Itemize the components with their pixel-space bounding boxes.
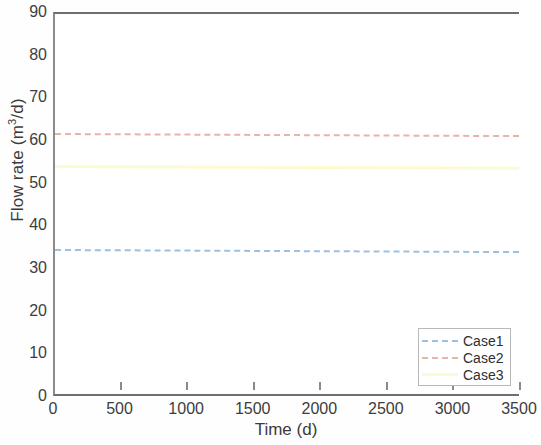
y-axis-tick-label: 30 bbox=[13, 259, 47, 277]
x-axis-label: Time (d) bbox=[53, 420, 519, 440]
x-axis-tick-mark bbox=[519, 382, 521, 390]
y-axis-tick-label: 10 bbox=[13, 344, 47, 362]
x-axis-tick-mark bbox=[120, 382, 122, 390]
legend-item-case1[interactable]: Case1 bbox=[419, 332, 510, 349]
x-axis-tick-label: 1500 bbox=[223, 400, 283, 418]
y-axis-tick-label: 40 bbox=[13, 216, 47, 234]
legend-item-label: Case1 bbox=[463, 333, 503, 349]
x-axis-tick-label: 3500 bbox=[489, 400, 541, 418]
y-axis-label: Flow rate (m3/d) bbox=[8, 50, 28, 270]
y-axis-tick-label: 20 bbox=[13, 302, 47, 320]
legend-item-case3[interactable]: Case3 bbox=[419, 366, 510, 383]
series-line-case3 bbox=[55, 165, 519, 170]
y-axis-tick-label: 70 bbox=[13, 88, 47, 106]
x-axis-tick-mark bbox=[319, 382, 321, 390]
y-axis-tick-label: 50 bbox=[13, 174, 47, 192]
x-axis-tick-mark bbox=[386, 382, 388, 390]
x-axis-tick-mark bbox=[253, 382, 255, 390]
x-axis-tick-label: 3000 bbox=[422, 400, 482, 418]
legend-line-sample-icon bbox=[422, 357, 458, 359]
x-axis-tick-label: 500 bbox=[90, 400, 150, 418]
x-axis-tick-mark bbox=[186, 382, 188, 390]
series-line-case1 bbox=[55, 249, 519, 253]
legend-item-case2[interactable]: Case2 bbox=[419, 349, 510, 366]
y-axis-tick-label: 60 bbox=[13, 131, 47, 149]
legend: Case1Case2Case3 bbox=[418, 328, 511, 386]
legend-line-sample-icon bbox=[422, 340, 458, 342]
x-axis-tick-label: 2500 bbox=[356, 400, 416, 418]
y-axis-tick-label: 80 bbox=[13, 46, 47, 64]
y-axis-label-exponent: 3 bbox=[6, 119, 18, 125]
legend-item-label: Case3 bbox=[463, 367, 503, 383]
x-axis-tick-label: 2000 bbox=[289, 400, 349, 418]
x-axis-tick-label: 0 bbox=[23, 400, 83, 418]
y-axis-tick-label: 90 bbox=[13, 3, 47, 21]
series-line-case2 bbox=[55, 133, 519, 137]
x-axis-tick-label: 1000 bbox=[156, 400, 216, 418]
legend-line-sample-icon bbox=[422, 373, 458, 376]
legend-item-label: Case2 bbox=[463, 350, 503, 366]
